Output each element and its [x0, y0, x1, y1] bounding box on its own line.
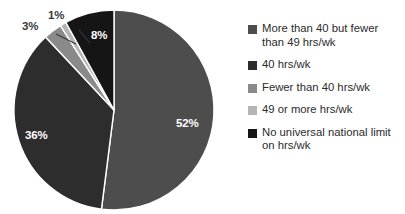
chart-legend: More than 40 but fewer than 49 hrs/wk40 … — [248, 22, 405, 162]
slice-label-52: 52% — [176, 118, 199, 130]
legend-item[interactable]: More than 40 but fewer than 49 hrs/wk — [248, 22, 405, 49]
pie-chart-figure: 52% 36% 3% 1% 8% More than 40 but fewer … — [0, 0, 405, 214]
legend-item-label: No universal national limit on hrs/wk — [262, 126, 402, 153]
legend-swatch-icon — [248, 129, 257, 138]
pie-slice-group — [14, 10, 214, 210]
slice-label-8: 8% — [91, 30, 107, 42]
legend-item[interactable]: 40 hrs/wk — [248, 58, 405, 72]
legend-swatch-icon — [248, 84, 257, 93]
legend-swatch-icon — [248, 25, 257, 34]
legend-item[interactable]: 49 or more hrs/wk — [248, 103, 405, 117]
legend-item[interactable]: Fewer than 40 hrs/wk — [248, 81, 405, 95]
pie-slice[interactable] — [101, 10, 214, 210]
slice-label-3: 3% — [22, 21, 38, 33]
legend-item-label: More than 40 but fewer than 49 hrs/wk — [262, 22, 402, 49]
pie-plot-area: 52% 36% 3% 1% 8% — [0, 0, 240, 214]
slice-label-36: 36% — [25, 130, 48, 142]
legend-swatch-icon — [248, 106, 257, 115]
legend-item[interactable]: No universal national limit on hrs/wk — [248, 126, 405, 153]
legend-item-label: 49 or more hrs/wk — [262, 103, 352, 117]
slice-label-1: 1% — [48, 10, 64, 22]
legend-item-label: Fewer than 40 hrs/wk — [262, 81, 370, 95]
legend-swatch-icon — [248, 61, 257, 70]
legend-item-label: 40 hrs/wk — [262, 58, 310, 72]
